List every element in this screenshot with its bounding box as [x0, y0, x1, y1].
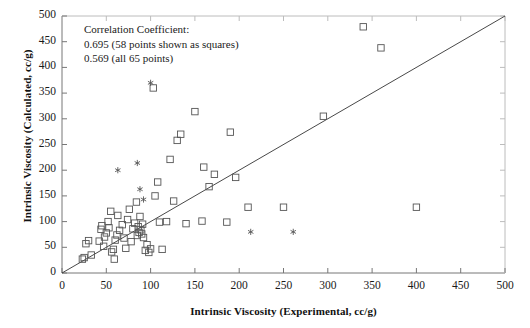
data-point-square: [227, 129, 233, 135]
data-point-square: [199, 218, 205, 224]
y-tick-label: 500: [6, 8, 56, 20]
y-tick-label: 300: [6, 111, 56, 123]
data-point-square: [126, 206, 132, 212]
y-tick-label: 350: [6, 85, 56, 97]
data-point-asterisk: [137, 186, 142, 192]
annotation-line-1: 0.695 (58 points shown as squares): [84, 37, 239, 52]
data-point-square: [108, 249, 114, 255]
data-point-square: [137, 213, 143, 219]
data-point-asterisk: [135, 160, 140, 166]
data-point-square: [156, 219, 162, 225]
data-point-square: [167, 156, 173, 162]
y-tick-label: 100: [6, 214, 56, 226]
correlation-annotation: Correlation Coefficient: 0.695 (58 point…: [84, 22, 239, 66]
data-point-square: [211, 171, 217, 177]
data-point-square: [413, 204, 419, 210]
data-point-square: [115, 212, 121, 218]
data-point-square: [128, 238, 134, 244]
data-point-square: [245, 204, 251, 210]
data-point-square: [183, 220, 189, 226]
annotation-line-0: Correlation Coefficient:: [84, 22, 239, 37]
scatter-plot-figure: Correlation Coefficient: 0.695 (58 point…: [0, 0, 530, 328]
data-point-square: [105, 218, 111, 224]
data-point-square: [133, 199, 139, 205]
data-point-asterisk: [141, 196, 146, 202]
data-point-square: [111, 256, 117, 262]
y-tick-label: 250: [6, 137, 56, 149]
data-point-asterisk: [248, 229, 253, 235]
data-point-square: [280, 204, 286, 210]
y-tick-label: 200: [6, 162, 56, 174]
y-tick-label: 50: [6, 239, 56, 251]
data-point-square: [170, 198, 176, 204]
data-point-square: [178, 131, 184, 137]
data-point-square: [320, 113, 326, 119]
data-point-asterisk: [291, 229, 296, 235]
data-point-square: [192, 108, 198, 114]
y-tick-label: 450: [6, 34, 56, 46]
y-tick-label: 400: [6, 59, 56, 71]
data-point-square: [110, 246, 116, 252]
x-axis-title: Intrinsic Viscosity (Experimental, cc/g): [62, 305, 505, 317]
data-point-square: [123, 245, 129, 251]
data-point-square: [201, 164, 207, 170]
annotation-line-2: 0.569 (all 65 points): [84, 51, 239, 66]
data-point-square: [360, 24, 366, 30]
data-point-square: [232, 174, 238, 180]
data-point-square: [163, 218, 169, 224]
data-point-square: [174, 137, 180, 143]
y-tick-label: 0: [6, 265, 56, 277]
data-point-square: [154, 179, 160, 185]
data-point-square: [224, 219, 230, 225]
x-tick-label: 500: [475, 279, 530, 291]
data-point-square: [108, 208, 114, 214]
data-point-square: [159, 246, 165, 252]
series-asterisk: [115, 80, 296, 235]
data-point-square: [378, 45, 384, 51]
y-tick-label: 150: [6, 188, 56, 200]
data-point-asterisk: [115, 167, 120, 173]
data-point-square: [152, 193, 158, 199]
